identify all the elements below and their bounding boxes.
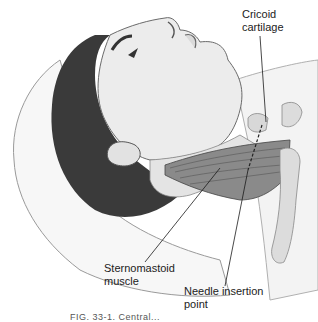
label-cricoid-cartilage: Cricoid cartilage (242, 8, 284, 34)
label-needle-insertion-point: Needle insertion point (184, 285, 264, 311)
label-sternomastoid-muscle: Sternomastoid muscle (104, 262, 175, 288)
ear (107, 142, 140, 166)
figure-caption: FIG. 33-1. Central... (70, 312, 160, 322)
cricoid-cartilage (248, 114, 268, 133)
